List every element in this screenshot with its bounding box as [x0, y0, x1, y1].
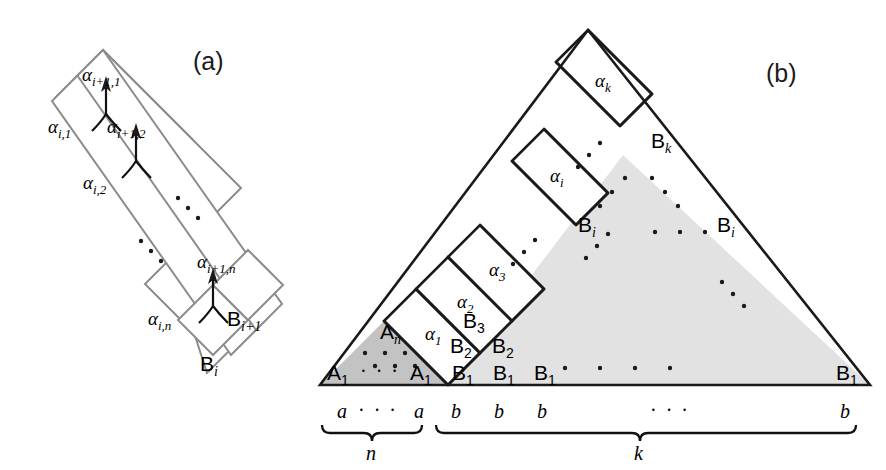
brace-n-count: n [366, 442, 376, 464]
brace-n-ellipsis: · · · [358, 399, 398, 421]
brace-k-ellipsis: · · · [650, 399, 690, 421]
panel-a-alpha-3: αi,2 [83, 172, 107, 197]
panel-b-caption: (b) [766, 59, 797, 87]
panel-b-brace-k: b b b · · · b k [436, 399, 856, 464]
panel-a-caption: (a) [193, 47, 224, 75]
brace-k-letter-2: b [494, 400, 504, 422]
brace-n-letter-left: a [337, 400, 347, 422]
brace-n-path [322, 425, 422, 441]
panel-a-alpha-5: αi,n [148, 308, 171, 333]
brace-k-letter-1: b [451, 400, 461, 422]
brace-n-letter-right: a [414, 400, 424, 422]
brace-k-letter-4: b [840, 400, 850, 422]
figure-root: (a) αi+1,1 αi,1 αi+1,2 αi,2 αi+1,n αi,n … [0, 0, 886, 470]
panel-b-a-ellipsis: · · · [360, 360, 400, 382]
panel-b-b-label-i-right: Bi [717, 213, 735, 240]
figure-svg: (a) αi+1,1 αi,1 αi+1,2 αi,2 αi+1,n αi,n … [0, 0, 886, 470]
panel-b-brace-n: a · · · a n [322, 399, 424, 464]
brace-k-count: k [634, 442, 644, 464]
panel-a: (a) αi+1,1 αi,1 αi+1,2 αi,2 αi+1,n αi,n … [48, 47, 283, 379]
brace-k-path [436, 425, 856, 441]
panel-b: (b) α1 α2 α3 αi αk An A1 [320, 30, 870, 464]
brace-k-letter-3: b [537, 400, 547, 422]
